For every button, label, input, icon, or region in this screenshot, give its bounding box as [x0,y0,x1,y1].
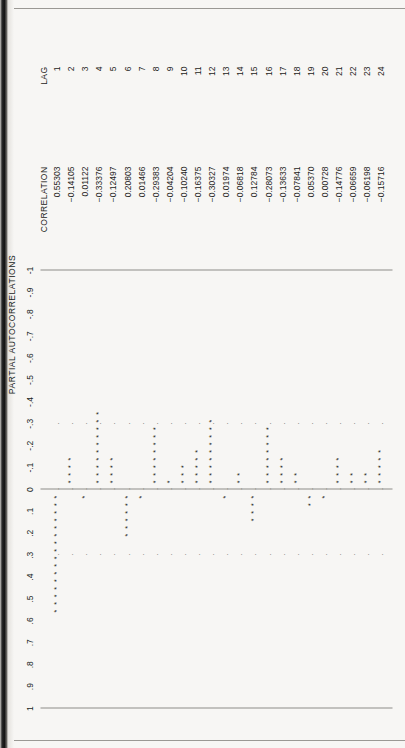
table-cell-lag: 6 [122,66,132,102]
table-cell-lag: 17 [277,66,287,102]
table-cell-correlation: −0.16375 [192,166,202,236]
table-cell-correlation: −0.15716 [375,166,385,236]
table-cell-lag: 2 [65,66,75,102]
table-cell-correlation: −0.29383 [150,166,160,236]
table-cell-correlation: −0.07841 [291,166,301,236]
table-cell-correlation: −0.10240 [178,166,188,236]
correlation-table: CORRELATIONLAG0.553031−0.1410520.011223−… [0,0,405,748]
table-cell-lag: 20 [319,66,329,102]
table-cell-correlation: −0.30327 [206,166,216,236]
table-cell-correlation: 0.55303 [51,166,61,236]
table-cell-correlation: 0.01466 [136,166,146,236]
table-cell-correlation: −0.14105 [65,166,75,236]
table-cell-lag: 24 [375,66,385,102]
table-cell-lag: 13 [220,66,230,102]
table-header-correlation: CORRELATION [38,166,48,236]
table-cell-lag: 1 [51,66,61,102]
table-cell-correlation: 0.05370 [305,166,315,236]
scanned-page: PARTIAL AUTOCORRELATIONS1.9.8.7.6.5.4.3.… [0,0,405,748]
table-cell-correlation: 0.01974 [220,166,230,236]
table-cell-correlation: −0.12497 [107,166,117,236]
table-cell-lag: 8 [150,66,160,102]
table-header-lag: LAG [38,66,48,102]
table-cell-lag: 18 [291,66,301,102]
table-cell-correlation: 0.00728 [319,166,329,236]
table-cell-correlation: −0.06659 [347,166,357,236]
table-cell-correlation: 0.20803 [122,166,132,236]
table-cell-lag: 16 [263,66,273,102]
table-cell-lag: 5 [107,66,117,102]
table-cell-correlation: −0.33376 [93,166,103,236]
table-cell-lag: 4 [93,66,103,102]
table-cell-correlation: 0.01122 [79,166,89,236]
table-cell-lag: 3 [79,66,89,102]
table-cell-correlation: 0.12784 [248,166,258,236]
table-cell-correlation: −0.06198 [361,166,371,236]
rotated-printout-canvas: PARTIAL AUTOCORRELATIONS1.9.8.7.6.5.4.3.… [0,0,405,748]
table-cell-lag: 11 [192,66,202,102]
table-cell-correlation: −0.28073 [263,166,273,236]
table-cell-lag: 7 [136,66,146,102]
table-cell-lag: 10 [178,66,188,102]
table-cell-correlation: −0.13633 [277,166,287,236]
table-cell-correlation: −0.14776 [333,166,343,236]
table-cell-lag: 9 [164,66,174,102]
table-cell-correlation: −0.06818 [234,166,244,236]
table-cell-correlation: −0.04204 [164,166,174,236]
table-cell-lag: 12 [206,66,216,102]
table-cell-lag: 22 [347,66,357,102]
table-cell-lag: 15 [248,66,258,102]
table-cell-lag: 19 [305,66,315,102]
table-cell-lag: 23 [361,66,371,102]
table-cell-lag: 21 [333,66,343,102]
table-cell-lag: 14 [234,66,244,102]
